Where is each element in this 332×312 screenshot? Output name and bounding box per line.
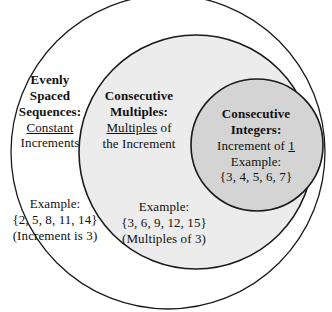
middle-set-title-line-1: Consecutive	[86, 88, 192, 104]
inner-set-definition-lead: Increment of	[217, 138, 285, 153]
middle-set-example-note: (Multiples of 3)	[100, 231, 228, 247]
middle-set-definition-lead: Multiples	[106, 120, 157, 135]
euler-diagram: Evenly Spaced Sequences: Constant Increm…	[0, 0, 332, 312]
outer-set-title-line-1: Evenly	[2, 72, 98, 88]
outer-set-example-label: Example:	[0, 196, 113, 212]
middle-set-example-block: Example: {3, 6, 9, 12, 15} (Multiples of…	[100, 199, 228, 247]
middle-set-definition-of: of	[161, 120, 172, 135]
outer-set-definition-rest: Increments	[2, 135, 98, 151]
outer-set-definition-lead: Constant	[2, 120, 98, 136]
inner-set-title-line-2: Integers:	[196, 122, 316, 138]
inner-set-example-set: {3, 4, 5, 6, 7}	[196, 169, 316, 185]
outer-set-title-block: Evenly Spaced Sequences: Constant Increm…	[2, 72, 98, 151]
middle-set-example-label: Example:	[100, 199, 228, 215]
inner-set-example-label: Example:	[196, 154, 316, 170]
inner-set-definition-line: Increment of 1	[196, 138, 316, 154]
middle-set-title-line-2: Multiples:	[86, 104, 192, 120]
outer-set-example-note: (Increment is 3)	[0, 228, 113, 244]
outer-set-title-line-3: Sequences:	[2, 104, 98, 120]
middle-set-definition-line-1: Multiples of	[86, 120, 192, 136]
outer-set-example-set: {2, 5, 8, 11, 14}	[0, 212, 113, 228]
outer-set-example-block: Example: {2, 5, 8, 11, 14} (Increment is…	[0, 196, 113, 244]
middle-set-example-set: {3, 6, 9, 12, 15}	[100, 215, 228, 231]
inner-set-definition-value: 1	[288, 138, 295, 153]
inner-set-title-block: Consecutive Integers: Increment of 1 Exa…	[196, 106, 316, 185]
outer-set-title-line-2: Spaced	[2, 88, 98, 104]
middle-set-definition-line-2: the Increment	[86, 136, 192, 152]
inner-set-title-line-1: Consecutive	[196, 106, 316, 122]
middle-set-title-block: Consecutive Multiples: Multiples of the …	[86, 88, 192, 151]
